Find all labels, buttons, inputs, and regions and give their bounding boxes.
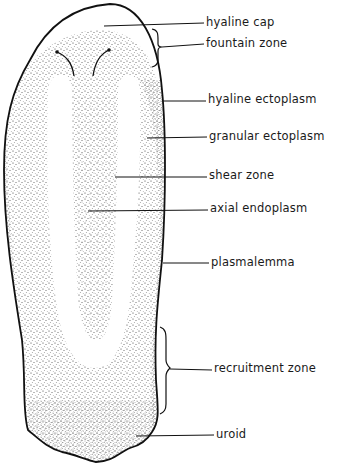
label-plasmalemma: plasmalemma	[211, 255, 295, 269]
label-granular-ectoplasm: granular ectoplasm	[209, 129, 325, 143]
recruitment-zone-bracket	[160, 327, 170, 414]
label-recruitment-zone: recruitment zone	[214, 361, 316, 375]
label-axial-endoplasm: axial endoplasm	[210, 201, 307, 215]
label-fountain-zone: fountain zone	[206, 36, 287, 50]
amoeba-diagram	[0, 0, 340, 475]
label-hyaline-cap: hyaline cap	[206, 15, 274, 29]
label-uroid: uroid	[216, 427, 246, 441]
label-hyaline-ectoplasm: hyaline ectoplasm	[208, 92, 317, 106]
label-shear-zone: shear zone	[209, 168, 274, 182]
